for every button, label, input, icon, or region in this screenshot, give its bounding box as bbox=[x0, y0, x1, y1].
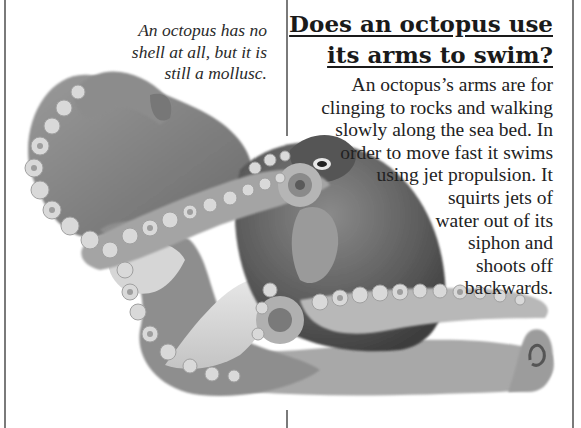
page-border-left bbox=[4, 0, 6, 428]
body-line: shoots off bbox=[321, 255, 553, 278]
body-line: using jet propulsion. It bbox=[321, 164, 553, 187]
body-line: siphon and bbox=[321, 232, 553, 255]
section-heading: Does an octopus use its arms to swim? bbox=[289, 8, 553, 70]
page-border-right bbox=[572, 0, 574, 428]
heading-line: its arms to swim? bbox=[327, 41, 553, 68]
body-line: slowly along the sea bed. In bbox=[321, 119, 553, 142]
column-divider-top bbox=[286, 0, 288, 136]
body-line: backwards. bbox=[321, 277, 553, 300]
body-line: squirts jets of bbox=[321, 187, 553, 210]
image-caption: An octopus has no shell at all, but it i… bbox=[17, 20, 267, 85]
caption-line: still a mollusc. bbox=[17, 63, 267, 85]
body-paragraph: An octopus’s arms are for clinging to ro… bbox=[321, 74, 553, 300]
body-line: An octopus’s arms are for bbox=[321, 74, 553, 97]
heading-line: Does an octopus use bbox=[289, 10, 553, 37]
caption-line: shell at all, but it is bbox=[17, 42, 267, 64]
book-page: An octopus has no shell at all, but it i… bbox=[0, 0, 581, 428]
body-line: clinging to rocks and walking bbox=[321, 97, 553, 120]
caption-line: An octopus has no bbox=[17, 20, 267, 42]
body-line: water out of its bbox=[321, 210, 553, 233]
column-divider-bottom bbox=[286, 410, 288, 428]
body-line: order to move fast it swims bbox=[321, 142, 553, 165]
